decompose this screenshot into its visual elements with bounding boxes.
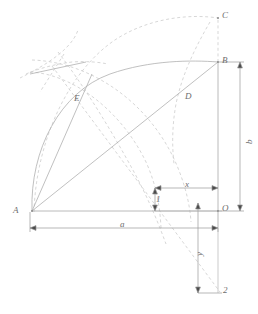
arc-large-dashed [34, 16, 218, 212]
point-label-two: 2 [223, 286, 228, 295]
arc-upper-left-descending [58, 52, 166, 244]
dimension-label-a: a [120, 220, 125, 229]
dimension-label-b: b [245, 140, 254, 145]
diagonal-dashed-upper-left [40, 54, 64, 92]
point-label-b: B [222, 56, 228, 65]
diagram-canvas [0, 0, 258, 314]
point-label-a: A [13, 206, 19, 215]
arc-center-a-inner [30, 72, 161, 228]
point-label-e: E [74, 94, 80, 103]
point-label-o: O [222, 204, 229, 213]
segment-a-to-e-ray [32, 74, 92, 211]
dimension-helper-ticks [155, 211, 222, 293]
arc-center-a-outer [32, 60, 191, 222]
point-label-c: C [222, 11, 228, 20]
dimension-line-b [219, 62, 244, 211]
point-label-d: D [185, 92, 192, 101]
arc-left-rising [20, 30, 78, 78]
segment-ab [32, 62, 218, 211]
point-label-one: 1 [156, 195, 161, 204]
dimension-label-y: y [195, 252, 204, 256]
dimension-label-x: x [185, 180, 189, 189]
geometric-diagram: A B C D E O 1 2 a b x y [0, 0, 258, 314]
